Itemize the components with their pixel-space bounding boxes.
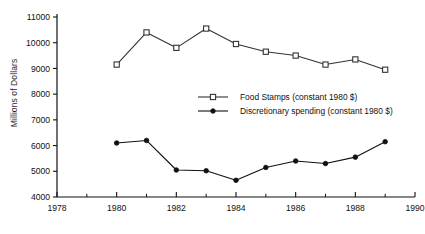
data-point-marker: [293, 159, 298, 164]
plot-area: 4000500060007000800090001000011000197819…: [0, 0, 425, 234]
x-tick-label: 1990: [405, 203, 424, 213]
legend-label-0: Food Stamps (constant 1980 $): [240, 92, 358, 102]
data-point-marker: [114, 141, 119, 146]
series-line-1: [117, 140, 386, 180]
series-line-0: [117, 29, 386, 70]
legend-marker-0: [210, 94, 215, 99]
x-tick-label: 1986: [286, 203, 305, 213]
y-tick-label: 6000: [31, 141, 50, 151]
y-tick-label: 11000: [27, 12, 50, 22]
data-point-marker: [264, 165, 269, 170]
x-tick-label: 1978: [47, 203, 66, 213]
data-point-marker: [323, 161, 328, 166]
data-point-marker: [174, 168, 179, 173]
data-point-marker: [144, 138, 149, 143]
x-tick-label: 1984: [226, 203, 245, 213]
legend-marker-1: [211, 109, 216, 114]
data-point-marker: [144, 30, 149, 35]
data-point-marker: [293, 53, 298, 58]
data-point-marker: [263, 49, 268, 54]
data-point-marker: [383, 67, 388, 72]
x-tick-label: 1982: [167, 203, 186, 213]
y-tick-label: 4000: [31, 192, 50, 202]
y-tick-label: 7000: [31, 115, 50, 125]
data-point-marker: [114, 62, 119, 67]
y-tick-label: 8000: [31, 89, 50, 99]
data-point-marker: [174, 45, 179, 50]
x-tick-label: 1980: [107, 203, 126, 213]
data-point-marker: [233, 41, 238, 46]
y-tick-label: 10000: [26, 38, 50, 48]
data-point-marker: [353, 155, 358, 160]
legend-label-1: Discretionary spending (constant 1980 $): [240, 106, 393, 116]
data-point-marker: [353, 57, 358, 62]
y-tick-label: 5000: [31, 166, 50, 176]
data-point-marker: [234, 178, 239, 183]
data-point-marker: [204, 26, 209, 31]
y-tick-label: 9000: [31, 64, 50, 74]
chart-container: · · · · · Millions of Dollars 4000500060…: [0, 0, 425, 234]
x-tick-label: 1988: [346, 203, 365, 213]
data-point-marker: [323, 62, 328, 67]
data-point-marker: [383, 139, 388, 144]
data-point-marker: [204, 168, 209, 173]
